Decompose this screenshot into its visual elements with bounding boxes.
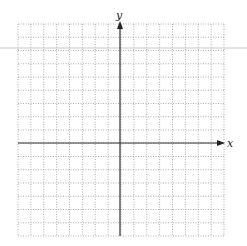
y-axis bbox=[117, 21, 123, 236]
x-axis-label: x bbox=[227, 137, 234, 150]
y-axis-arrow-icon bbox=[117, 21, 123, 29]
x-axis bbox=[18, 140, 225, 146]
coordinate-grid: x y bbox=[0, 0, 247, 246]
grid-lines bbox=[18, 24, 224, 236]
y-axis-label: y bbox=[115, 9, 123, 22]
x-axis-arrow-icon bbox=[217, 140, 225, 146]
